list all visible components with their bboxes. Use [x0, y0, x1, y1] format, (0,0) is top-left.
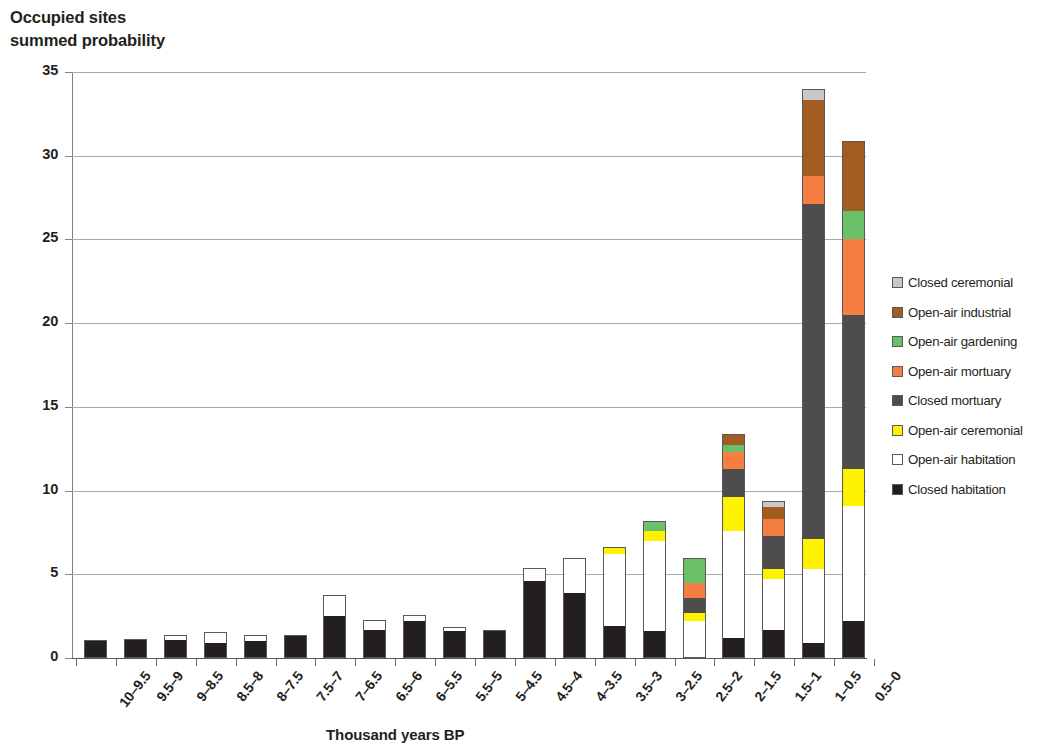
- legend-item[interactable]: Open-air mortuary: [892, 357, 1039, 387]
- x-axis-title: Thousand years BP: [326, 726, 464, 743]
- legend-item[interactable]: Open-air habitation: [892, 445, 1039, 475]
- chart-figure: Occupied sites summed probability 051015…: [0, 0, 1039, 747]
- bar-8-7.5[interactable]: [244, 636, 267, 658]
- bar-segment: [204, 642, 227, 658]
- bar-segment: [802, 175, 825, 204]
- bar-segment: [842, 620, 865, 658]
- bar-9.5-9[interactable]: [124, 640, 147, 658]
- bar-segment: [244, 635, 267, 641]
- x-tick-label: 4–3.5: [592, 668, 625, 704]
- bar-3-2.5[interactable]: [643, 522, 666, 658]
- bar-10-9.5[interactable]: [84, 641, 107, 658]
- plot-area: [72, 72, 866, 658]
- bar-segment: [563, 558, 586, 592]
- legend-item[interactable]: Closed ceremonial: [892, 268, 1039, 298]
- y-axis-title-line1: Occupied sites: [10, 8, 126, 26]
- bar-segment: [323, 615, 346, 658]
- bar-segment: [762, 629, 785, 658]
- bar-2-1.5[interactable]: [722, 435, 745, 658]
- x-tick-label: 5–4.5: [512, 668, 545, 704]
- x-tick-mark: [515, 659, 516, 666]
- bar-6-5.5[interactable]: [403, 616, 426, 658]
- bar-segment: [244, 640, 267, 658]
- legend-swatch-icon: [892, 395, 903, 406]
- x-tick-mark: [76, 659, 77, 666]
- x-tick-mark: [754, 659, 755, 666]
- y-axis-title-line2: summed probability: [10, 29, 310, 52]
- bar-segment: [403, 615, 426, 621]
- legend-item[interactable]: Open-air industrial: [892, 298, 1039, 328]
- x-tick-label: 3–2.5: [671, 668, 704, 704]
- bar-4.5-4[interactable]: [523, 569, 546, 658]
- x-tick-mark: [276, 659, 277, 666]
- bar-segment: [603, 553, 626, 626]
- bar-segment: [762, 518, 785, 536]
- bar-segment: [643, 521, 666, 530]
- gridline: [72, 156, 866, 157]
- bar-segment: [443, 627, 466, 631]
- legend-item[interactable]: Open-air ceremonial: [892, 416, 1039, 446]
- bar-segment: [722, 434, 745, 445]
- x-tick-mark: [714, 659, 715, 666]
- bar-4-3.5[interactable]: [563, 559, 586, 658]
- x-tick-mark: [395, 659, 396, 666]
- bar-8.5-8[interactable]: [204, 633, 227, 658]
- legend-item[interactable]: Open-air gardening: [892, 327, 1039, 357]
- bar-segment: [683, 558, 706, 582]
- gridline: [72, 72, 866, 73]
- bar-0.5-0[interactable]: [842, 142, 865, 658]
- x-tick-mark: [635, 659, 636, 666]
- gridline: [72, 239, 866, 240]
- bar-segment: [722, 496, 745, 530]
- bar-segment: [523, 580, 546, 658]
- bar-segment: [722, 468, 745, 497]
- bar-1-0.5[interactable]: [802, 90, 825, 658]
- bar-segment: [363, 629, 386, 658]
- x-tick-mark: [794, 659, 795, 666]
- gridline: [72, 407, 866, 408]
- bar-2.5-2[interactable]: [683, 559, 706, 658]
- bar-5-4.5[interactable]: [483, 631, 506, 658]
- legend-swatch-icon: [892, 307, 903, 318]
- legend-label: Open-air habitation: [908, 452, 1015, 467]
- gridline: [72, 574, 866, 575]
- legend-label: Open-air ceremonial: [908, 423, 1023, 438]
- bar-segment: [603, 625, 626, 658]
- legend-item[interactable]: Closed habitation: [892, 475, 1039, 505]
- bar-segment: [722, 444, 745, 452]
- x-tick-label: 3.5–3: [632, 668, 665, 704]
- legend-label: Open-air industrial: [908, 305, 1011, 320]
- x-tick-mark: [116, 659, 117, 666]
- legend-swatch-icon: [892, 277, 903, 288]
- bar-7.5-7[interactable]: [284, 636, 307, 658]
- y-tick-label: 15: [18, 397, 58, 413]
- bar-5.5-5[interactable]: [443, 628, 466, 658]
- x-tick-mark: [834, 659, 835, 666]
- legend-item[interactable]: Closed mortuary: [892, 386, 1039, 416]
- x-axis-line: [72, 658, 867, 659]
- bar-segment: [164, 635, 187, 639]
- bar-segment: [722, 451, 745, 469]
- bar-segment: [643, 540, 666, 631]
- x-tick-mark: [315, 659, 316, 666]
- bar-7-6.5[interactable]: [323, 596, 346, 658]
- x-tick-mark: [874, 659, 875, 666]
- bar-segment: [842, 468, 865, 506]
- x-tick-label: 1–0.5: [831, 668, 864, 704]
- legend-swatch-icon: [892, 484, 903, 495]
- x-tick-label: 4.5–4: [552, 668, 585, 704]
- bar-segment: [683, 612, 706, 621]
- legend-label: Closed habitation: [908, 482, 1006, 497]
- bar-6.5-6[interactable]: [363, 621, 386, 658]
- legend-swatch-icon: [892, 366, 903, 377]
- bar-segment: [204, 632, 227, 643]
- x-tick-label: 9–8.5: [193, 668, 226, 704]
- x-tick-mark: [675, 659, 676, 666]
- bar-9-8.5[interactable]: [164, 636, 187, 658]
- bar-segment: [683, 582, 706, 598]
- bar-1.5-1[interactable]: [762, 502, 785, 658]
- bar-segment: [643, 630, 666, 658]
- bar-segment: [323, 595, 346, 616]
- bar-3.5-3[interactable]: [603, 548, 626, 659]
- x-tick-label: 6.5–6: [392, 668, 425, 704]
